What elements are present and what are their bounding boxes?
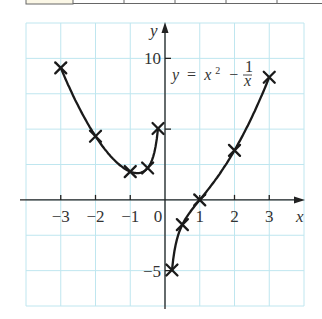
x-tick-label: −1 — [121, 207, 139, 226]
x-tick-label: 1 — [196, 207, 205, 226]
x-tick-label: 2 — [230, 207, 239, 226]
x-tick-label: −3 — [52, 207, 70, 226]
eq-frac-den: x — [243, 72, 251, 89]
y-tick-label: 10 — [144, 49, 161, 68]
data-point-marker — [177, 219, 188, 230]
curve-branch — [172, 77, 269, 270]
y-axis-label: y — [148, 21, 158, 40]
svg-text:y = x 2: y = x 2 − — [170, 60, 238, 84]
eq-minus: − — [229, 66, 238, 83]
equation-label: y = x 2 − 1 x — [170, 58, 253, 89]
curve-branch — [61, 68, 158, 173]
y-axis-arrow — [162, 22, 169, 33]
y-tick-label: −5 — [143, 262, 161, 281]
x-axis-arrow — [294, 196, 305, 203]
x-tick-label: −2 — [86, 207, 104, 226]
eq-exponent: 2 — [215, 65, 220, 76]
x-tick-label: 0 — [154, 207, 163, 226]
table-row-remnant — [26, 0, 322, 4]
table-cell-shaded — [26, 0, 73, 4]
function-graph: −3−2−1012310−5 y x y = x 2 − 1 x — [0, 0, 322, 319]
x-axis-label: x — [295, 207, 304, 226]
eq-lhs: y — [170, 66, 180, 84]
x-tick-label: 3 — [265, 207, 274, 226]
eq-equals: = — [187, 66, 196, 83]
eq-x: x — [203, 66, 211, 83]
